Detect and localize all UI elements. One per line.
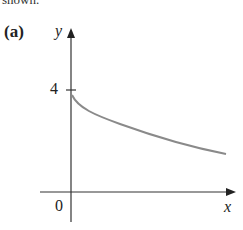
y-axis-arrow-icon [67,28,75,38]
x-axis-arrow-icon [226,188,236,196]
data-curve [72,95,226,154]
y-tick-label-4: 4 [50,80,58,98]
origin-label: 0 [55,197,63,215]
chart-plot [0,0,243,230]
x-axis-label: x [224,198,231,216]
y-axis-label: y [55,22,62,40]
